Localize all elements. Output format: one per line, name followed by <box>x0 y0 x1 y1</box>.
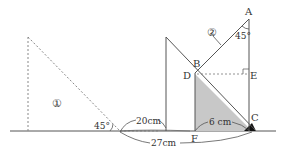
label-triangle-1: ① <box>52 97 62 110</box>
label-point-A: A <box>244 6 253 17</box>
right-angle-mark <box>243 69 249 74</box>
label-angle-A: 45° <box>235 31 251 41</box>
label-point-D: D <box>183 70 191 81</box>
dim-27cm <box>120 132 252 143</box>
label-point-B: B <box>193 58 200 69</box>
geometry-diagram: ① ② 45° 45° A B D E C F 20cm 6 cm 27cm <box>0 0 290 161</box>
label-27cm: 27cm <box>151 138 176 148</box>
label-triangle-2: ② <box>207 26 217 39</box>
label-point-F: F <box>191 133 198 144</box>
label-angle-1: 45° <box>94 121 110 131</box>
label-6cm: 6 cm <box>209 117 232 127</box>
label-point-C: C <box>251 112 259 123</box>
label-20cm: 20cm <box>136 116 161 126</box>
label-point-E: E <box>250 70 257 81</box>
